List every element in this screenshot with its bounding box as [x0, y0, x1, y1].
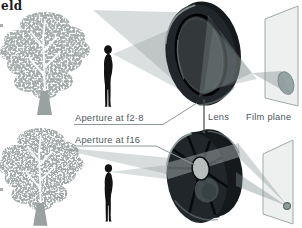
label-aperture-f16: Aperture at f16	[75, 135, 140, 145]
label-aperture-f2-8: Aperture at f2·8	[75, 113, 144, 123]
label-lens: Lens	[208, 112, 229, 122]
heading-fragment: eld	[1, 0, 23, 13]
focus-point-small	[284, 203, 291, 210]
page-edge-artifact	[0, 24, 3, 27]
page-edge-artifact	[0, 188, 3, 191]
lens-connector-dot-bottom	[203, 131, 206, 134]
label-film-plane: Film plane	[246, 112, 291, 122]
depth-of-field-diagram: Aperture at f2·8 Aperture at f16 Lens Fi…	[0, 0, 302, 228]
lens-connector-dot-top	[203, 100, 206, 103]
